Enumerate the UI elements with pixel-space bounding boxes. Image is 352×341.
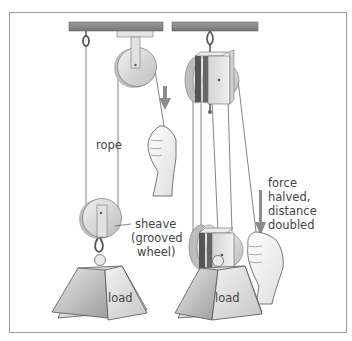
force-label-line4: doubled bbox=[268, 218, 315, 232]
force-label-line2: halved, bbox=[268, 190, 310, 204]
diagram-frame bbox=[10, 13, 347, 333]
pulley-mount-bracket bbox=[117, 31, 153, 37]
sheave-label: sheave bbox=[135, 217, 176, 231]
ceiling-beam-left bbox=[69, 22, 163, 31]
load-label-right: load bbox=[215, 291, 240, 305]
sheave-label-line3: wheel) bbox=[137, 245, 176, 259]
rope-label: rope bbox=[96, 138, 122, 152]
force-label-line3: distance bbox=[268, 204, 317, 218]
load-label-left: load bbox=[108, 291, 133, 305]
sheave-label-line2: (grooved bbox=[131, 231, 183, 245]
ceiling-beam-right bbox=[172, 22, 258, 31]
pulley-diagram: rope sheave (grooved wheel) load bbox=[0, 0, 352, 341]
force-label-line1: force bbox=[268, 176, 297, 190]
